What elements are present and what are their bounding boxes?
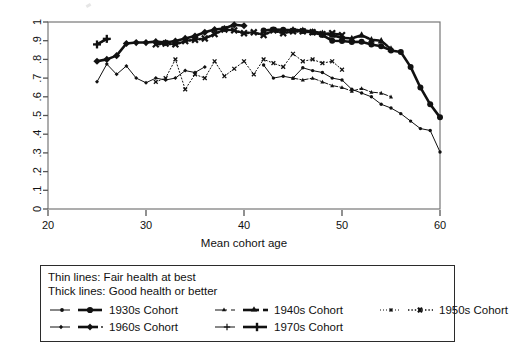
legend-entries: 1930s Cohort 1940s Cohort [48,301,454,335]
series-line [97,64,205,83]
legend-key-1970s-icon [213,320,271,334]
data-point [311,69,314,72]
data-point [311,76,315,80]
data-point [103,56,110,63]
legend-label-1960s: 1960s Cohort [106,321,213,333]
data-point [340,78,343,81]
y-tick-label: .3 [31,148,43,157]
line-chart: 0.1.2.3.4.5.6.7.8.912030405060Mean cohor… [0,0,468,258]
legend-item-1950s[interactable]: 1950s Cohort [378,303,513,317]
data-point [252,72,256,76]
data-point [398,49,404,55]
legend-item-1930s[interactable]: 1930s Cohort [48,303,213,317]
data-point [329,38,335,44]
data-point [164,78,168,82]
legend-label-1930s: 1930s Cohort [106,304,213,316]
legend-key-1960s-icon [48,320,106,334]
legend-item-1960s[interactable]: 1960s Cohort [48,320,213,334]
data-point [213,59,217,63]
data-point [232,67,236,71]
legend-label-1970s: 1970s Cohort [271,321,378,333]
data-point [429,129,432,132]
y-tick-label: .2 [31,167,43,176]
y-tick-label: .1 [31,186,43,195]
y-tick-label: .6 [31,92,43,101]
data-point [359,39,365,45]
data-point [142,39,149,46]
data-point [133,39,140,46]
legend-label-1940s: 1940s Cohort [271,304,378,316]
y-tick-label: .4 [31,130,43,139]
data-point [360,91,363,94]
legend-note-thick: Thick lines: Good health or better [48,285,454,299]
series-9 [94,37,109,47]
chart-area: 0.1.2.3.4.5.6.7.8.912030405060Mean cohor… [0,0,468,258]
data-point [419,127,422,130]
x-tick-label: 50 [336,219,348,231]
data-point [370,95,373,98]
data-point [174,58,178,62]
legend-key-1940s-icon [213,303,271,317]
data-point [95,80,99,84]
y-tick-label: .8 [31,55,43,64]
x-tick-label: 20 [42,219,54,231]
data-point [262,63,265,66]
data-point [262,58,266,62]
series-6 [93,21,247,65]
legend-key-1930s-icon [48,303,106,317]
data-point [291,52,295,56]
series-layer [93,21,443,153]
legend-box: Thin lines: Fair health at best Thick li… [40,265,455,342]
axis-labels-layer: 0.1.2.3.4.5.6.7.8.912030405060Mean cohor… [31,19,446,249]
data-point [272,76,275,79]
data-point [282,75,285,78]
axes-layer [43,22,440,216]
data-point [154,76,158,80]
data-point [331,76,334,79]
data-point [144,81,148,85]
data-point [203,65,207,69]
data-point [223,74,227,78]
legend-key-1950s-icon [378,303,436,317]
y-tick-label: 1 [31,19,43,25]
data-point [242,59,246,63]
legend-note-thin: Thin lines: Fair health at best [48,271,454,285]
x-axis-title: Mean cohort age [201,237,287,249]
data-point [203,76,207,80]
data-point [201,29,208,36]
legend-item-1970s[interactable]: 1970s Cohort [213,320,378,334]
legend-item-1940s[interactable]: 1940s Cohort [213,303,378,317]
data-point [438,150,441,153]
legend-row-1: 1930s Cohort 1940s Cohort [48,301,454,318]
data-point [240,22,247,29]
legend-label-1950s: 1950s Cohort [436,304,513,316]
data-point [437,114,443,120]
y-tick-label: .9 [31,36,43,45]
data-point [399,112,402,115]
data-point [417,84,423,90]
data-point [358,31,365,38]
x-tick-label: 60 [434,219,446,231]
x-tick-label: 30 [140,219,152,231]
data-point [272,61,276,65]
data-point [93,58,100,65]
data-point [380,103,383,106]
data-point [301,66,304,69]
data-point [340,68,344,72]
y-tick-label: .7 [31,74,43,83]
data-point [408,64,414,70]
data-point [321,71,324,74]
x-tick-label: 40 [238,219,250,231]
y-tick-label: .5 [31,111,43,120]
data-point [409,119,412,122]
series-line [264,65,440,152]
data-point [360,86,364,90]
data-point [193,70,197,74]
data-point [389,106,392,109]
y-tick-label: 0 [31,206,43,212]
data-point [427,101,433,107]
series-4 [153,27,345,48]
plot-frame [48,22,440,209]
legend-row-2: 1960s Cohort 1970s Cohort [48,318,454,335]
